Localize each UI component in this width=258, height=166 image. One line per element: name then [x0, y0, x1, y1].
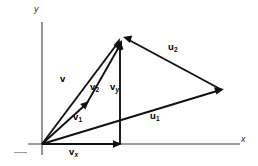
vector-diagram-figure: y x v v2 vy v1 vx u1 u2 [0, 0, 258, 166]
vector-label-v2: v2 [90, 82, 99, 92]
vector-u1 [42, 87, 224, 144]
vector-u1-shaft [42, 91, 217, 144]
vector-label-vx-sub: x [75, 151, 79, 158]
vector-label-v: v [60, 74, 65, 84]
vector-vx [42, 140, 122, 147]
vector-v [42, 38, 120, 144]
vector-label-vy-sub: y [116, 86, 120, 93]
vector-label-u2-text: u [168, 41, 174, 52]
vector-label-v1: v1 [73, 112, 82, 122]
x-axis-label: x [241, 135, 246, 144]
vector-diagram-canvas [0, 0, 258, 166]
vector-label-vx: vx [69, 147, 78, 157]
vector-v-shaft [42, 44, 117, 144]
vector-label-v1-text: v [73, 111, 78, 122]
vector-label-v2-text: v [90, 81, 95, 92]
vector-label-v1-sub: 1 [79, 116, 83, 123]
vector-label-v-text: v [60, 73, 65, 84]
vector-label-u1-sub: 1 [156, 115, 160, 122]
vector-label-vy-text: v [110, 81, 115, 92]
vector-label-v2-sub: 2 [96, 86, 100, 93]
vector-label-vy: vy [110, 82, 119, 92]
vector-label-vx-text: v [69, 146, 74, 157]
vector-label-u2-sub: 2 [174, 46, 178, 53]
vector-label-u1-text: u [150, 110, 156, 121]
y-axis-label: y [34, 5, 39, 14]
vector-label-u2: u2 [168, 42, 177, 52]
vector-label-u1: u1 [150, 111, 159, 121]
vector-v2-shaft [87, 46, 120, 103]
